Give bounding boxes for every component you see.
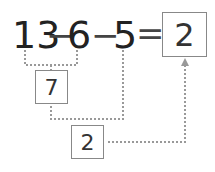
operand-6: 6 bbox=[67, 16, 91, 54]
step2-box: 2 bbox=[71, 125, 104, 159]
result-box: 2 bbox=[162, 12, 207, 57]
equals-sign: = bbox=[136, 16, 165, 50]
operand-5: 5 bbox=[113, 16, 137, 54]
step1-box: 7 bbox=[35, 70, 68, 104]
arrow-head-icon bbox=[181, 58, 189, 66]
